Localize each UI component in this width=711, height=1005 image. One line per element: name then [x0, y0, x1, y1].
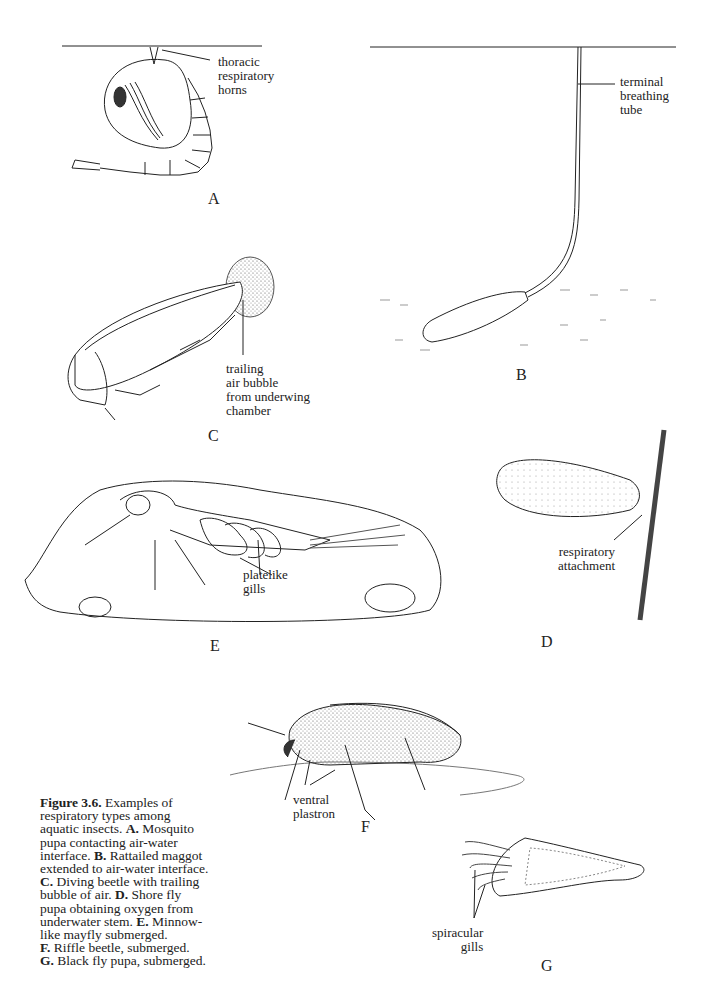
label-terminal-breathing-tube: terminal breathing tube — [620, 75, 669, 117]
caption-key-g: G. — [40, 953, 54, 968]
shore-fly-pupa-illustration — [497, 430, 664, 620]
label-spiracular-gills: spiracular gills — [432, 926, 483, 954]
panel-letter-g: G — [541, 957, 553, 975]
figure-caption: Figure 3.6. Examples of respiratory type… — [40, 796, 210, 968]
panel-letter-a: A — [208, 190, 220, 208]
panel-letter-b: B — [516, 366, 527, 384]
panel-letter-c: C — [208, 427, 219, 445]
panel-letter-e: E — [210, 637, 220, 655]
mayfly-illustration — [25, 481, 441, 622]
panel-letter-d: D — [541, 633, 553, 651]
riffle-beetle-illustration — [230, 703, 524, 820]
label-ventral-plastron: ventral plastron — [293, 793, 335, 821]
label-trailing-air-bubble: trailing air bubble from underwing chamb… — [226, 362, 310, 418]
panel-letter-f: F — [361, 818, 370, 836]
caption-text-g: Black fly pupa, submerged. — [57, 953, 206, 968]
black-fly-pupa-illustration — [462, 838, 644, 918]
label-respiratory-attachment: respiratory attachment — [558, 545, 615, 573]
label-thoracic-respiratory-horns: thoracic respiratory horns — [218, 55, 274, 97]
label-platelike-gills: platelike gills — [243, 568, 288, 596]
